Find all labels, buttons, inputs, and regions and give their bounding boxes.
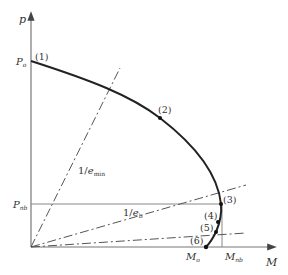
point-1-label: (1) xyxy=(35,51,48,62)
point-3-label: (3) xyxy=(223,194,236,205)
mnb-label: Mnb xyxy=(224,251,243,263)
point-6 xyxy=(204,245,208,249)
point-4-label: (4) xyxy=(204,210,217,221)
m0-label: Mo xyxy=(185,251,200,263)
point-6-label: (6) xyxy=(190,235,203,246)
pnb-label: Pnb xyxy=(12,199,28,211)
point-2 xyxy=(158,116,162,120)
p0-label: Po xyxy=(15,56,27,68)
p-axis-label: p xyxy=(19,13,26,26)
eb-label: 1/eb xyxy=(123,207,143,219)
point-5 xyxy=(214,230,218,234)
point-5-label: (5) xyxy=(200,222,213,233)
interaction-diagram: p M Po Pnb Mo Mnb (1) (2) (3) (4) (5) (6… xyxy=(0,0,288,275)
m-axis-label: M xyxy=(265,256,278,269)
interaction-curve xyxy=(31,61,221,247)
emin-line xyxy=(31,68,120,247)
point-2-label: (2) xyxy=(158,104,171,115)
emin-label: 1/emin xyxy=(78,165,105,177)
